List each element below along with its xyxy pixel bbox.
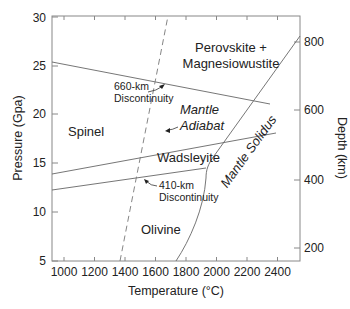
annotation-adiabat-line1: Mantle [180,102,219,117]
annotation-660km-line2: Discontinuity [114,92,174,104]
y-tick-label: 10 [33,205,47,219]
x-tick-label: 1200 [81,265,108,279]
y-tick-label: 25 [33,59,47,73]
x-axis-title: Temperature (°C) [128,284,224,298]
y2-tick-label: 600 [304,103,324,117]
phase-diagram-chart: 1000 1200 1400 1600 1800 2000 2200 2400 … [0,0,350,309]
region-label-magnesiowustite: Magnesiowustite [183,56,280,71]
x-tick-label: 2400 [264,265,291,279]
annotation-mantle-solidus: Mantle Solidus [217,112,280,190]
y-axis-title: Pressure (Gpa) [11,95,25,180]
x-tick-label: 1000 [51,265,78,279]
region-label-wadsleyite: Wadsleyite [157,150,220,165]
y2-tick-label: 400 [304,173,324,187]
x-tick-label: 2200 [234,265,261,279]
y2-tick-labels: 200 400 600 800 [304,35,324,255]
y2-tick-label: 200 [304,241,324,255]
annotation-410km-line1: 410-km [159,179,194,191]
x-tick-label: 1800 [173,265,200,279]
arrowhead-adiabat [165,128,170,133]
y2-ticks [294,42,300,248]
y2-tick-label: 800 [304,35,324,49]
region-label-spinel: Spinel [68,124,104,139]
y-tick-label: 5 [39,254,46,268]
chart-svg: 1000 1200 1400 1600 1800 2000 2200 2400 … [0,0,350,309]
y-tick-labels: 5 10 15 20 25 30 [33,11,47,268]
y-ticks [52,17,58,261]
annotation-adiabat-line2: Adiabat [179,118,225,133]
y-tick-label: 15 [33,156,47,170]
x-tick-label: 2000 [203,265,230,279]
x-tick-label: 1400 [112,265,139,279]
y2-axis-title: Depth (km) [335,117,349,179]
y-tick-label: 30 [33,11,47,25]
x-tick-labels: 1000 1200 1400 1600 1800 2000 2200 2400 [51,265,292,279]
annotation-410km-line2: Discontinuity [159,191,219,203]
annotation-660km-line1: 660-km [114,80,149,92]
region-label-olivine: Olivine [141,222,181,237]
y-tick-label: 20 [33,107,47,121]
x-tick-label: 1600 [142,265,169,279]
region-label-perovskite: Perovskite + [195,40,267,55]
